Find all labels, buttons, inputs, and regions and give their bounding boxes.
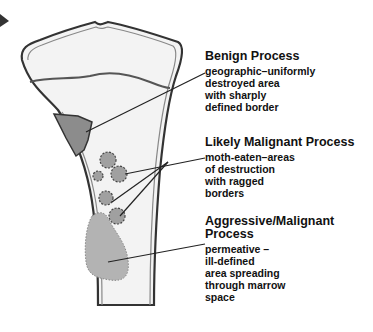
desc-line: geographic–uniformly bbox=[205, 65, 315, 77]
desc-line: area spreading bbox=[205, 267, 334, 279]
desc-line: ill-defined bbox=[205, 255, 334, 267]
desc-line: of destruction bbox=[205, 163, 354, 175]
pointer-arrow-icon bbox=[0, 14, 9, 27]
label-benign-title: Benign Process bbox=[205, 50, 315, 63]
desc-line: permeative – bbox=[205, 243, 334, 255]
title-line: Process bbox=[205, 228, 334, 241]
label-benign-desc: geographic–uniformly destroyed area with… bbox=[205, 65, 315, 113]
label-aggressive-malignant-desc: permeative – ill-defined area spreading … bbox=[205, 243, 334, 303]
label-aggressive-malignant: Aggressive/Malignant Process permeative … bbox=[205, 215, 334, 303]
label-aggressive-malignant-title: Aggressive/Malignant Process bbox=[205, 215, 334, 241]
desc-line: borders bbox=[205, 187, 354, 199]
label-likely-malignant-desc: moth-eaten–areas of destruction with rag… bbox=[205, 151, 354, 199]
desc-line: through marrow bbox=[205, 279, 334, 291]
label-benign: Benign Process geographic–uniformly dest… bbox=[205, 50, 315, 113]
label-likely-malignant: Likely Malignant Process moth-eaten–area… bbox=[205, 136, 354, 199]
desc-line: defined border bbox=[205, 101, 315, 113]
desc-line: destroyed area bbox=[205, 77, 315, 89]
label-likely-malignant-title: Likely Malignant Process bbox=[205, 136, 354, 149]
desc-line: with ragged bbox=[205, 175, 354, 187]
desc-line: with sharply bbox=[205, 89, 315, 101]
desc-line: moth-eaten–areas bbox=[205, 151, 354, 163]
desc-line: space bbox=[205, 291, 334, 303]
